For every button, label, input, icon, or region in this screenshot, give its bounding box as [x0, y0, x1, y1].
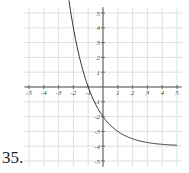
y-tick-label: 1: [97, 69, 101, 77]
y-tick-label: 5: [97, 10, 101, 18]
x-tick-label: 2: [131, 89, 135, 97]
x-tick-label: -3: [56, 89, 62, 97]
y-tick-label: -2: [94, 113, 100, 121]
x-tick-label: 1: [116, 89, 120, 97]
y-tick-label: -5: [94, 158, 100, 166]
y-tick-label: -3: [94, 128, 100, 136]
x-tick-label: 5: [175, 89, 179, 97]
x-tick-label: 4: [160, 89, 164, 97]
y-tick-label: -4: [94, 143, 100, 151]
y-tick-label: 2: [97, 54, 101, 62]
x-tick-label: -2: [70, 89, 76, 97]
x-tick-label: 3: [145, 89, 150, 97]
x-tick-label: -4: [41, 89, 47, 97]
y-tick-label: 3: [96, 39, 101, 47]
y-tick-label: 4: [97, 24, 101, 32]
exponential-graph: -5-4-3-2-11234554321-1-2-3-4-5: [0, 0, 189, 173]
function-curve: [69, 0, 177, 145]
x-tick-label: -5: [26, 89, 32, 97]
